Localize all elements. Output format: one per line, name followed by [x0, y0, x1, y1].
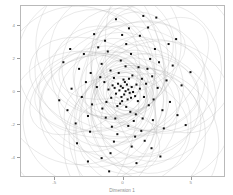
data-point	[128, 27, 130, 29]
data-point	[121, 34, 123, 36]
data-point	[129, 92, 131, 94]
data-point	[132, 91, 134, 93]
data-point	[120, 60, 122, 62]
data-point	[127, 125, 129, 127]
x-axis-title: Dimension 1	[109, 188, 135, 193]
data-point	[148, 104, 150, 106]
data-point	[110, 97, 112, 99]
data-point	[66, 109, 68, 111]
data-point	[146, 68, 148, 70]
data-point	[112, 84, 114, 86]
data-point	[107, 50, 109, 52]
data-point	[141, 78, 143, 80]
data-point	[114, 117, 116, 119]
data-point	[139, 35, 141, 37]
data-point	[113, 77, 115, 79]
data-point	[76, 142, 78, 144]
data-point	[117, 83, 119, 85]
plot-frame	[20, 5, 225, 177]
data-point	[83, 53, 85, 55]
data-point	[159, 156, 161, 158]
data-point	[168, 43, 170, 45]
data-point	[125, 90, 127, 92]
data-point	[185, 124, 187, 126]
data-point	[135, 113, 137, 115]
data-point	[131, 146, 133, 148]
plot-svg	[21, 6, 224, 176]
data-point	[81, 96, 83, 98]
data-point	[158, 61, 160, 63]
data-point	[155, 17, 157, 19]
data-point	[105, 117, 107, 119]
data-point	[127, 89, 129, 91]
y-tick-mark	[17, 91, 20, 92]
data-point	[139, 88, 141, 90]
data-point	[120, 96, 122, 98]
data-point	[103, 81, 105, 83]
data-point	[153, 98, 155, 100]
data-point	[131, 74, 133, 76]
data-point	[151, 75, 153, 77]
data-point	[110, 70, 112, 72]
data-point	[78, 68, 80, 70]
confidence-ellipse	[44, 42, 224, 176]
confidence-ellipse-layer	[21, 6, 224, 176]
y-tick-mark	[17, 58, 20, 59]
data-point	[101, 157, 103, 159]
data-point	[154, 48, 156, 50]
data-point	[116, 105, 118, 107]
data-point	[115, 18, 117, 20]
data-point	[152, 119, 154, 121]
y-tick-mark	[17, 124, 20, 125]
data-point	[115, 93, 117, 95]
data-point	[145, 83, 147, 85]
data-point	[87, 160, 89, 162]
data-point	[144, 140, 146, 142]
data-point	[125, 43, 127, 45]
data-point	[91, 103, 93, 105]
data-point	[118, 72, 120, 74]
data-point	[130, 97, 132, 99]
data-point	[142, 117, 144, 119]
data-point	[124, 81, 126, 83]
data-point	[140, 130, 142, 132]
data-point	[169, 101, 171, 103]
data-point	[189, 71, 191, 73]
data-point	[104, 40, 106, 42]
data-point	[119, 103, 121, 105]
confidence-ellipse	[38, 43, 224, 176]
data-point	[181, 84, 183, 86]
data-point	[135, 162, 137, 164]
data-point	[58, 99, 60, 101]
data-point	[161, 109, 163, 111]
y-tick-label: 0	[3, 89, 15, 94]
data-point	[147, 27, 149, 29]
data-point	[130, 53, 132, 55]
y-tick-label: 2	[3, 55, 15, 60]
data-point	[125, 106, 127, 108]
data-point	[131, 86, 133, 88]
data-point	[125, 65, 127, 67]
data-point	[123, 79, 125, 81]
data-point	[172, 65, 174, 67]
x-tick-label: 5	[190, 180, 192, 185]
confidence-ellipse	[55, 65, 197, 176]
data-point	[149, 58, 151, 60]
data-point	[166, 79, 168, 81]
data-point	[135, 84, 137, 86]
data-point	[69, 48, 71, 50]
data-point	[157, 87, 159, 89]
data-point	[75, 122, 77, 124]
data-point	[107, 89, 109, 91]
data-point	[99, 76, 101, 78]
y-tick-label: -2	[3, 122, 15, 127]
data-point	[108, 170, 110, 172]
x-tick-label: -5	[52, 180, 56, 185]
data-point	[96, 86, 98, 88]
data-point	[90, 72, 92, 74]
data-point	[122, 87, 124, 89]
data-point	[142, 15, 144, 17]
data-point	[137, 100, 139, 102]
data-point	[126, 84, 128, 86]
data-point	[85, 81, 87, 83]
